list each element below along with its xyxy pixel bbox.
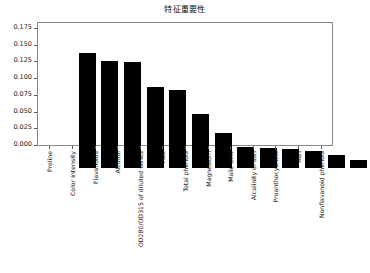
x-axis-tick-mark bbox=[230, 146, 231, 149]
x-axis-tick-mark bbox=[253, 146, 254, 149]
y-axis: 0.0000.0250.0500.0750.1000.1250.1500.175 bbox=[0, 22, 37, 146]
x-axis-tick-mark bbox=[140, 146, 141, 149]
x-axis-tick-label: Color intensity bbox=[68, 151, 75, 196]
x-axis-tick-label: Proanthocyanins bbox=[272, 151, 279, 202]
x-axis: ProlineColor intensityFlavanoidsAlcoholO… bbox=[38, 146, 332, 273]
x-axis-tick-mark bbox=[117, 146, 118, 149]
y-axis-tick-label: 0.125 bbox=[13, 56, 32, 65]
bar bbox=[350, 160, 367, 168]
x-axis-tick-label: Magnesium bbox=[204, 151, 211, 187]
y-axis-tick-label: 0.025 bbox=[13, 123, 32, 132]
x-axis-tick-mark bbox=[321, 146, 322, 149]
x-axis-tick-mark bbox=[162, 146, 163, 149]
y-axis-tick-label: 0.075 bbox=[13, 90, 32, 99]
y-axis-tick-label: 0.175 bbox=[13, 23, 32, 32]
x-axis-tick-label: Alcohol bbox=[114, 151, 121, 174]
x-axis-tick-label: OD280/OD315 of diluted wines bbox=[136, 151, 143, 247]
x-axis-tick-label: Ash bbox=[295, 151, 302, 162]
x-axis-tick-mark bbox=[275, 146, 276, 149]
y-axis-tick-label: 0.050 bbox=[13, 107, 32, 116]
x-axis-tick-label: Flavanoids bbox=[91, 151, 98, 184]
y-axis-tick-label: 0.100 bbox=[13, 73, 32, 82]
x-axis-tick-mark bbox=[95, 146, 96, 149]
x-axis-tick-label: Nonflavanoid phenols bbox=[317, 151, 324, 218]
y-axis-tick-label: 0.000 bbox=[13, 140, 32, 149]
x-axis-tick-label: Total phenols bbox=[182, 151, 189, 192]
x-axis-tick-label: Malic acid bbox=[227, 151, 234, 182]
y-axis-tick-label: 0.150 bbox=[13, 40, 32, 49]
x-axis-tick-mark bbox=[49, 146, 50, 149]
x-axis-tick-label: Hue bbox=[159, 151, 166, 163]
chart-title: 特征重要性 bbox=[37, 4, 333, 15]
x-axis-tick-mark bbox=[298, 146, 299, 149]
plot-area bbox=[37, 22, 333, 146]
x-axis-tick-label: Proline bbox=[46, 151, 53, 172]
x-axis-tick-mark bbox=[72, 146, 73, 149]
x-axis-tick-mark bbox=[208, 146, 209, 149]
x-axis-tick-mark bbox=[185, 146, 186, 149]
x-axis-tick-label: Alcalinity of ash bbox=[249, 151, 256, 200]
